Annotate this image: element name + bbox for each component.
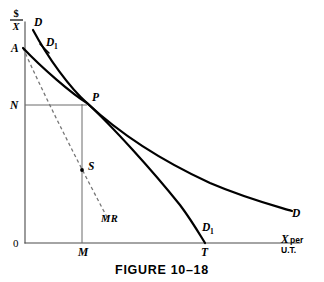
label-point-t: T [201, 246, 209, 258]
figure-caption: FIGURE 10–18 [115, 263, 209, 277]
figure-container: $ X A N 0 M T P S D D 1 D D 1 MR X per U… [0, 0, 324, 282]
x-axis-label-group: X per U.T. [280, 233, 304, 255]
x-axis-label-main: X [280, 233, 289, 245]
label-curve-d1-bottom-subscript: 1 [210, 227, 214, 236]
x-axis-label-small: per [290, 235, 304, 245]
label-curve-d1-bottom-group: D 1 [201, 221, 214, 236]
label-tick-n: N [9, 99, 19, 111]
guide-lines-group [25, 104, 87, 243]
label-curve-d1-top-group: D 1 [45, 36, 58, 51]
label-curve-d1-top-subscript: 1 [54, 42, 58, 51]
label-curve-d-right: D [291, 207, 301, 219]
label-curve-d-top: D [33, 16, 43, 28]
figure-10-18-chart: $ X A N 0 M T P S D D 1 D D 1 MR X per U… [0, 0, 324, 282]
y-axis-numerator: $ [13, 8, 18, 19]
y-axis-denominator: X [11, 21, 20, 32]
point-markers-group [40, 44, 84, 172]
x-axis-label-second-line: U.T. [281, 245, 296, 255]
label-origin-zero: 0 [13, 237, 19, 249]
y-axis-label-group: $ X [10, 8, 23, 32]
marginal-revenue-curve [23, 48, 108, 219]
label-marginal-revenue: MR [100, 213, 118, 224]
label-point-p: P [92, 91, 100, 103]
label-tick-m: M [77, 246, 89, 258]
axes-group [25, 22, 300, 243]
point-s-marker [80, 168, 84, 172]
label-point-s: S [88, 160, 94, 172]
label-point-a: A [10, 42, 19, 54]
